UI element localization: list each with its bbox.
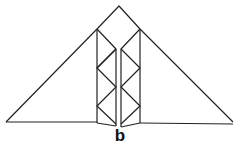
- outer-triangle: [6, 6, 233, 122]
- figure-label: b: [112, 126, 128, 146]
- base-right: [140, 123, 233, 124]
- left-bracing: [97, 29, 116, 124]
- right-bracing: [121, 29, 140, 124]
